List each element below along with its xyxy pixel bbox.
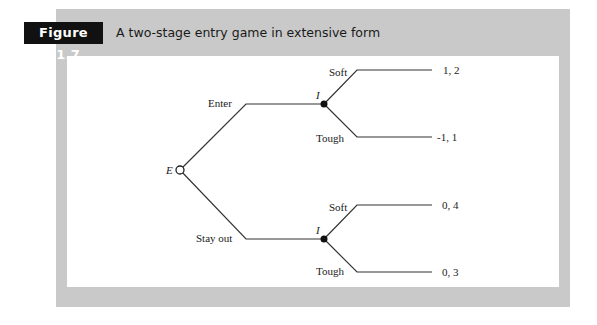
node-e-icon xyxy=(176,166,184,174)
action-tough-lower-label: Tough xyxy=(316,265,344,277)
action-tough-upper-label: Tough xyxy=(316,132,344,144)
player-i-upper-label: I xyxy=(315,89,321,101)
branch-stay-out xyxy=(180,170,324,239)
player-i-lower-label: I xyxy=(315,224,321,236)
player-e-label: E xyxy=(165,164,173,176)
action-stay-out-label: Stay out xyxy=(196,232,232,244)
node-i-upper-icon xyxy=(321,101,328,108)
action-soft-lower-label: Soft xyxy=(329,201,347,213)
branch-enter xyxy=(180,104,324,170)
node-i-lower-icon xyxy=(321,236,328,243)
payoff-stayout-tough: 0, 3 xyxy=(442,266,459,278)
action-enter-label: Enter xyxy=(208,97,232,109)
payoff-enter-soft: 1, 2 xyxy=(443,64,460,76)
payoff-stayout-soft: 0, 4 xyxy=(442,199,459,211)
game-tree: E I I Enter Stay out Soft Tough Soft Tou… xyxy=(0,0,597,325)
payoff-enter-tough: -1, 1 xyxy=(437,131,457,143)
action-soft-upper-label: Soft xyxy=(329,66,347,78)
